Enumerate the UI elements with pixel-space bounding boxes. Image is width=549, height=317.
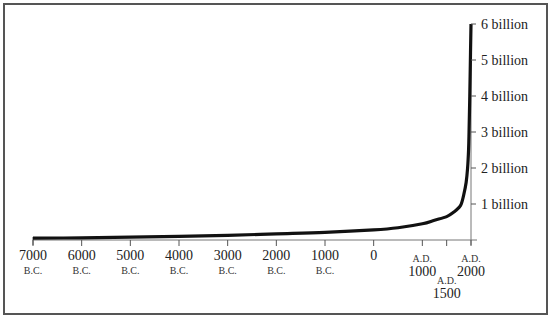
y-tick-label: 4 billion: [481, 89, 528, 104]
x-tick-label: 2000: [262, 248, 290, 263]
x-tick-label: 2000: [457, 264, 485, 279]
x-tick-label: 5000: [116, 248, 144, 263]
x-tick-era: A.D.: [461, 253, 480, 264]
population-curve: [33, 24, 471, 238]
y-tick-label: 5 billion: [481, 53, 528, 68]
x-tick-era: B.C.: [218, 265, 236, 276]
x-tick-era: B.C.: [170, 265, 188, 276]
x-tick-label: 1000: [408, 264, 436, 279]
x-tick-label: 1500: [433, 286, 461, 301]
x-tick-label: 6000: [68, 248, 96, 263]
axes: [33, 24, 477, 245]
population-growth-chart: 1 billion2 billion3 billion4 billion5 bi…: [0, 0, 549, 317]
x-tick-era: B.C.: [267, 265, 285, 276]
x-tick-era: A.D.: [437, 275, 456, 286]
y-tick-label: 6 billion: [481, 17, 528, 32]
x-tick-era: B.C.: [24, 265, 42, 276]
x-tick-label: 4000: [165, 248, 193, 263]
x-tick-label: 3000: [214, 248, 242, 263]
y-tick-label: 3 billion: [481, 125, 528, 140]
x-tick-label: 1000: [311, 248, 339, 263]
x-tick-label: 0: [370, 248, 377, 263]
y-tick-label: 1 billion: [481, 197, 528, 212]
x-tick-era: B.C.: [316, 265, 334, 276]
y-axis-ticks: 1 billion2 billion3 billion4 billion5 bi…: [471, 17, 528, 212]
x-tick-era: A.D.: [413, 253, 432, 264]
y-tick-label: 2 billion: [481, 161, 528, 176]
x-tick-era: B.C.: [121, 265, 139, 276]
x-tick-era: B.C.: [72, 265, 90, 276]
population-line: [33, 24, 471, 238]
x-axis-ticks: 7000B.C.6000B.C.5000B.C.4000B.C.3000B.C.…: [19, 240, 485, 301]
x-tick-label: 7000: [19, 248, 47, 263]
